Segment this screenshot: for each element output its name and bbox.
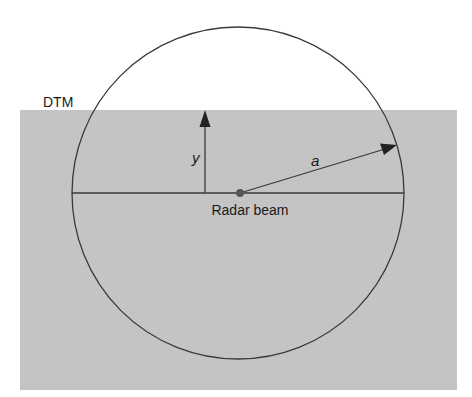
dtm-terrain-region bbox=[20, 110, 457, 390]
radar-beam-label: Radar beam bbox=[211, 202, 288, 218]
dtm-label: DTM bbox=[43, 94, 73, 110]
a-label: a bbox=[311, 152, 319, 169]
dtm-radar-beam-diagram: DTM y a Radar beam bbox=[0, 0, 472, 397]
radar-beam-center-dot bbox=[236, 189, 244, 197]
